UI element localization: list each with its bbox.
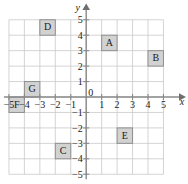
x-tick-label: −5	[4, 99, 15, 110]
coordinate-plane-svg: ABCDEFG −5−4−3−2−11234554321−1−2−3−4−50x…	[0, 0, 188, 184]
x-tick-label: 3	[130, 99, 135, 110]
box-label: A	[106, 37, 114, 48]
box-label: G	[29, 83, 36, 94]
y-tick-label: −2	[72, 123, 83, 134]
origin-label: 0	[88, 87, 93, 98]
x-tick-label: 5	[161, 99, 166, 110]
x-tick-label: 1	[99, 99, 104, 110]
x-tick-label: 2	[115, 99, 120, 110]
grid-box-d: D	[40, 20, 55, 35]
box-label: D	[44, 21, 51, 32]
coordinate-grid-figure: ABCDEFG −5−4−3−2−11234554321−1−2−3−4−50x…	[0, 0, 188, 184]
x-axis-name: x	[179, 96, 185, 107]
x-tick-label: 4	[146, 99, 151, 110]
x-tick-label: −3	[35, 99, 46, 110]
y-tick-label: 2	[78, 61, 83, 72]
y-tick-label: −1	[72, 107, 83, 118]
y-tick-label: 3	[78, 45, 83, 56]
y-tick-label: −4	[72, 153, 83, 164]
y-tick-label: 1	[78, 76, 83, 87]
y-tick-label: 5	[78, 14, 83, 25]
grid-box-a: A	[102, 35, 117, 50]
grid-box-c: C	[55, 143, 70, 158]
box-label: C	[60, 145, 67, 156]
grid-box-g: G	[24, 82, 39, 97]
box-label: B	[152, 52, 159, 63]
y-tick-label: −5	[72, 169, 83, 180]
x-tick-label: −4	[19, 99, 30, 110]
grid-box-b: B	[148, 51, 163, 66]
grid-box-e: E	[117, 128, 132, 143]
x-tick-label: −2	[50, 99, 61, 110]
y-axis-name: y	[75, 2, 81, 13]
y-tick-label: 4	[78, 30, 83, 41]
y-tick-label: −3	[72, 138, 83, 149]
box-label: E	[122, 130, 128, 141]
y-axis-arrowhead	[82, 4, 90, 11]
